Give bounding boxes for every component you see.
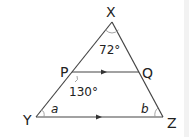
angle-label-p: 130° xyxy=(69,85,98,99)
parallel-arrow-pq-icon xyxy=(101,70,107,75)
angle-arc-p xyxy=(75,76,78,82)
side-xz xyxy=(112,22,163,117)
parallel-arrow-yz-icon xyxy=(96,115,102,120)
vertex-label-x: X xyxy=(106,4,116,20)
vertex-label-y: Y xyxy=(22,112,32,128)
angle-arc-z xyxy=(155,108,158,117)
angle-label-x: 72° xyxy=(99,43,120,57)
vertex-label-p: P xyxy=(60,64,68,80)
vertex-label-q: Q xyxy=(142,65,153,81)
angle-label-y: a xyxy=(51,102,58,116)
angle-label-z: b xyxy=(141,102,149,116)
vertex-label-z: Z xyxy=(167,115,177,131)
triangle-diagram: X P Q Y Z 72° 130° a b xyxy=(0,0,189,137)
side-xy xyxy=(36,22,112,117)
